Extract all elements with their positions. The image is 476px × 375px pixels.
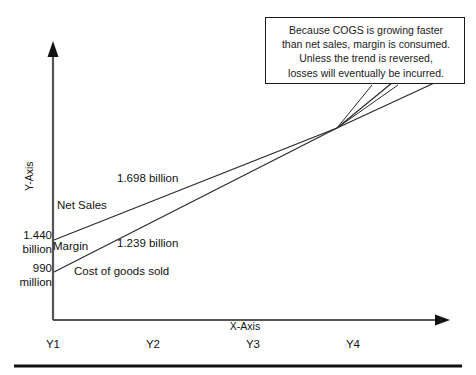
x-tick-label-y3: Y3 <box>233 338 273 352</box>
y-axis-caption: Y-Axis <box>23 146 35 206</box>
y-tick-990-line2: million <box>19 276 52 288</box>
x-tick-label-y1: Y1 <box>33 338 73 352</box>
y-tick-1440-line2: billion <box>23 243 52 255</box>
x-tick-label-y2: Y2 <box>133 338 173 352</box>
data-value-net-sales: 1.698 billion <box>117 172 178 186</box>
series-label-net-sales: Net Sales <box>57 199 107 213</box>
series-line-cost-of-goods-sold <box>54 78 445 272</box>
callout-text: Because COGS is growing faster than net … <box>266 23 466 80</box>
chart-canvas: Y-Axis 1.440billion 990million Net Sales… <box>0 0 476 375</box>
y-tick-label-990-million: 990million <box>0 262 52 289</box>
series-line-net-sales <box>54 78 398 240</box>
y-tick-990-line1: 990 <box>33 262 52 274</box>
y-tick-1440-line1: 1.440 <box>23 229 52 241</box>
data-value-cost-of-goods-sold: 1.239 billion <box>117 237 178 251</box>
callout-box: Because COGS is growing faster than net … <box>265 17 465 84</box>
series-label-cost-of-goods-sold: Cost of goods sold <box>74 265 169 279</box>
x-axis-caption: X-Axis <box>205 320 285 332</box>
y-axis-arrowhead <box>48 41 59 57</box>
y-tick-label-1440-billion: 1.440billion <box>0 229 52 256</box>
x-axis-arrowhead <box>435 315 450 326</box>
annotation-margin: Margin <box>53 240 88 254</box>
x-tick-label-y4: Y4 <box>333 338 373 352</box>
